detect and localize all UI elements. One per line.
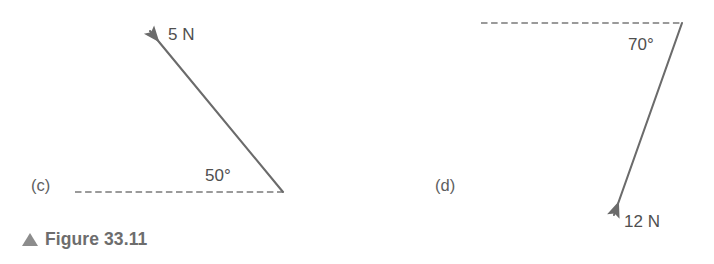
triangle-up-icon	[22, 233, 38, 246]
force-label-5n: 5 N	[168, 26, 194, 43]
figure-container: (c) 5 N 50° (d) 70° 12 N Figure 33.11	[0, 0, 714, 264]
angle-label-70deg: 70°	[628, 36, 654, 53]
force-label-12n: 12 N	[624, 213, 660, 230]
panel-c-graphics	[75, 31, 283, 192]
panel-label-c: (c)	[31, 177, 50, 194]
vector-diagram-svg	[0, 0, 714, 264]
figure-caption: Figure 33.11	[22, 229, 147, 250]
figure-caption-text: Figure 33.11	[45, 229, 147, 250]
angle-label-50deg: 50°	[205, 167, 231, 184]
panel-label-d: (d)	[435, 177, 455, 194]
